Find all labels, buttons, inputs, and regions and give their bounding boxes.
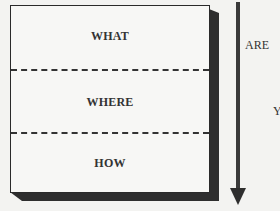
section-what-label: WHAT <box>11 29 209 44</box>
section-where-label: WHERE <box>11 95 209 110</box>
side-label-are: ARE <box>245 38 269 53</box>
layered-box: WHAT WHERE HOW <box>10 5 210 193</box>
down-arrow-icon <box>230 188 246 205</box>
down-arrow-shaft <box>236 2 240 190</box>
box-shadow-right <box>209 9 219 201</box>
side-label-y: Y <box>273 104 280 119</box>
box-shadow-bottom <box>10 192 219 201</box>
dashed-divider-1 <box>11 69 209 71</box>
dashed-divider-2 <box>11 132 209 134</box>
section-how-label: HOW <box>11 156 209 171</box>
